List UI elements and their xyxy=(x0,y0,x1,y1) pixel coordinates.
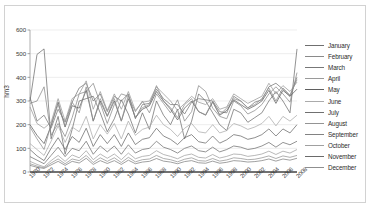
legend-label: August xyxy=(328,120,347,127)
legend-item-may[interactable]: May xyxy=(305,84,369,95)
legend-label: July xyxy=(328,109,339,116)
legend-swatch-icon xyxy=(305,101,324,102)
legend-swatch-icon xyxy=(305,123,324,124)
legend-label: January xyxy=(328,42,350,49)
y-tick-label: 400 xyxy=(2,74,26,81)
y-tick-label: 0 xyxy=(2,168,26,175)
legend-label: September xyxy=(328,131,358,138)
legend-label: May xyxy=(328,86,340,93)
legend-item-january[interactable]: January xyxy=(305,40,369,51)
legend-swatch-icon xyxy=(305,134,324,135)
legend-item-june[interactable]: June xyxy=(305,95,369,106)
y-tick-label: 300 xyxy=(2,97,26,104)
legend-label: December xyxy=(328,164,356,171)
chart-legend: JanuaryFebruaryMarchAprilMayJuneJulyAugu… xyxy=(305,40,369,173)
legend-label: April xyxy=(328,75,340,82)
legend-swatch-icon xyxy=(305,167,324,168)
legend-swatch-icon xyxy=(305,145,324,146)
legend-swatch-icon xyxy=(305,112,324,113)
legend-label: June xyxy=(328,98,341,105)
legend-label: October xyxy=(328,142,350,149)
y-tick-label: 200 xyxy=(2,121,26,128)
legend-item-april[interactable]: April xyxy=(305,73,369,84)
legend-item-november[interactable]: November xyxy=(305,151,369,162)
legend-swatch-icon xyxy=(305,56,324,57)
legend-swatch-icon xyxy=(305,78,324,79)
y-tick-label: 500 xyxy=(2,50,26,57)
legend-item-september[interactable]: September xyxy=(305,129,369,140)
legend-item-october[interactable]: October xyxy=(305,140,369,151)
legend-swatch-icon xyxy=(305,45,324,46)
legend-item-march[interactable]: March xyxy=(305,62,369,73)
legend-swatch-icon xyxy=(305,156,324,157)
legend-label: November xyxy=(328,153,356,160)
legend-item-december[interactable]: December xyxy=(305,162,369,173)
legend-swatch-icon xyxy=(305,67,324,68)
legend-label: February xyxy=(328,53,352,60)
legend-item-february[interactable]: February xyxy=(305,51,369,62)
y-tick-label: 600 xyxy=(2,26,26,33)
y-tick-label: 100 xyxy=(2,145,26,152)
legend-item-august[interactable]: August xyxy=(305,118,369,129)
series-line-june xyxy=(30,115,297,155)
chart-container: hm3 0100200300400500600 1970197219741976… xyxy=(0,0,371,209)
legend-swatch-icon xyxy=(305,89,324,90)
legend-label: March xyxy=(328,64,345,71)
legend-item-july[interactable]: July xyxy=(305,107,369,118)
